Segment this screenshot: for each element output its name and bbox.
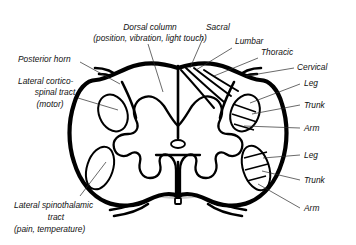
label-cervical: Cervical [297,62,328,72]
label-lateral-corticospinal-line2: spinal tract [35,87,76,97]
label-dorsal-column-title: Dorsal column [123,22,177,32]
label-lumbar: Lumbar [235,36,265,46]
label-lateral-corticospinal-line3: (motor) [37,99,64,109]
leader-st-arm [258,184,300,208]
central-canal [171,140,185,148]
label-sacral: Sacral [206,22,231,32]
label-corticospinal-arm: Arm [303,123,319,133]
label-posterior-horn: Posterior horn [18,54,71,64]
label-lateral-spinothalamic-line3: (pain, temperature) [14,224,85,234]
label-spinothalamic-leg: Leg [304,150,318,160]
label-lateral-spinothalamic-line1: Lateral spinothalamic [14,200,94,210]
label-dorsal-column-subtitle: (position, vibration, light touch) [93,33,207,43]
label-lateral-corticospinal-line1: Lateral cortico- [18,76,74,86]
label-spinothalamic-trunk: Trunk [304,175,326,185]
label-spinothalamic-arm: Arm [303,203,319,213]
label-thoracic: Thoracic [261,47,294,57]
label-corticospinal-leg: Leg [304,78,318,88]
spinal-cord-diagram: Dorsal column (position, vibration, ligh… [0,0,356,245]
label-lateral-spinothalamic-line2: tract [48,212,65,222]
label-corticospinal-trunk: Trunk [304,100,326,110]
